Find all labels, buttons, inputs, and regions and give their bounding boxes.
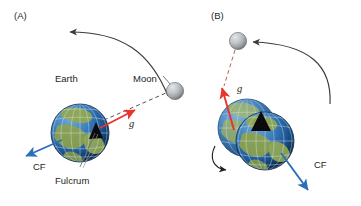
panel-a-label: (A) [14,10,27,21]
panel-b: (B) [211,10,330,190]
earth-moon-axis-line [104,93,166,120]
centrifugal-vector-label: CF [314,159,327,170]
moon-leader-line [163,76,171,85]
orbit-direction-arrow [253,42,330,104]
gravity-vector-label: g [129,118,134,129]
earth-label: Earth [55,73,78,84]
moon-sphere [166,82,183,99]
orbit-direction-arrow [70,32,168,96]
panel-b-label: (B) [211,10,224,21]
centrifugal-vector-label: CF [33,161,46,172]
moon-label: Moon [133,73,157,84]
panel-a: (A) Earth Moon [14,10,184,186]
centrifugal-vector-arrow [281,153,308,190]
physics-figure: (A) Earth Moon [0,0,361,206]
earth-moon-axis-line [224,50,235,86]
fulcrum-label: Fulcrum [55,175,89,186]
gravity-vector-label: g [237,83,242,94]
moon-sphere [229,32,246,49]
tidal-force-diagram: (A) Earth Moon [0,0,361,206]
earth-rotation-arrow [212,146,226,170]
